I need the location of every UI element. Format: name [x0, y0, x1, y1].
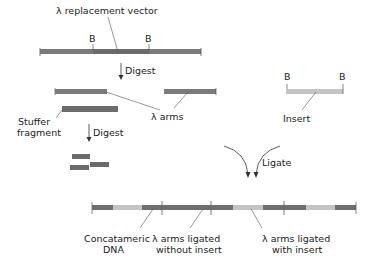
insert-fragment [287, 84, 343, 110]
arrow-down-icon [254, 172, 259, 178]
without-insert-label-1: λ arms ligated [152, 233, 220, 244]
stuffer-label-2: fragment [17, 127, 61, 138]
concat-label-2: DNA [103, 244, 124, 255]
left-arm [55, 89, 107, 94]
insert-segment [113, 205, 142, 210]
digest-label-2: Digest [93, 127, 124, 138]
with-insert-label-1: λ arms ligated [262, 233, 330, 244]
vector-right-arm [149, 49, 201, 54]
insert-bamhi-right: B [339, 71, 346, 82]
arrow-down-icon [246, 172, 251, 178]
cloning-diagram: λ replacement vector B B Digest λ arms S… [0, 0, 370, 274]
with-insert-label-2: with insert [272, 244, 323, 255]
digest-arrow-2 [87, 124, 92, 142]
insert-label: Insert [283, 113, 311, 124]
ligate-label: Ligate [262, 157, 292, 168]
without-insert-label-2: without insert [156, 244, 222, 255]
insert-segment [306, 205, 335, 210]
lambda-vector [40, 17, 201, 56]
arrow-down-icon [119, 75, 124, 80]
stuffer-pieces [70, 154, 109, 170]
concat-label-1: Concatameric [84, 233, 150, 244]
vector-left-arm [40, 49, 93, 54]
right-arm [164, 89, 216, 94]
insert-segment [233, 205, 263, 210]
bamhi-site-right: B [145, 33, 152, 44]
bamhi-site-left: B [89, 33, 96, 44]
digest-arrow-1 [119, 63, 124, 80]
stuffer-label-1: Stuffer [18, 116, 50, 127]
vector-stuffer [93, 49, 149, 54]
stuffer-fragment [56, 106, 118, 118]
vector-label: λ replacement vector [56, 5, 158, 16]
arrow-down-icon [87, 137, 92, 142]
insert-bamhi-left: B [284, 71, 291, 82]
lambda-arms-label: λ arms [151, 111, 183, 122]
concatemer [92, 201, 356, 228]
digest-label-1: Digest [125, 65, 156, 76]
